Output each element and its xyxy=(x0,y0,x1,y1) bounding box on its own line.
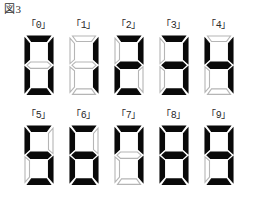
segment-bottom-right-icon xyxy=(48,157,53,182)
segment-top-left-icon xyxy=(70,38,75,63)
digit-row: 「0」「1」「2」「3」「4」 xyxy=(0,20,267,96)
segment-top-right-icon xyxy=(183,38,188,63)
segment-top-icon xyxy=(117,126,140,132)
segment-bottom-right-icon xyxy=(183,157,188,182)
seven-segment-display-8 xyxy=(155,124,193,186)
seven-segment-display-4 xyxy=(200,34,238,96)
segment-middle-icon xyxy=(117,152,141,158)
segment-middle-icon xyxy=(27,62,51,68)
digit-cell-0: 「0」 xyxy=(16,20,61,96)
segment-top-icon xyxy=(72,126,95,132)
digit-cell-5: 「5」 xyxy=(16,110,61,186)
seven-segment-display-6 xyxy=(65,124,103,186)
segment-bottom-left-icon xyxy=(160,157,165,182)
segment-bottom-left-icon xyxy=(205,157,210,182)
seven-segment-display-0 xyxy=(20,34,58,96)
segment-middle-icon xyxy=(207,62,231,68)
segment-bottom-left-icon xyxy=(160,67,165,92)
digit-cell-9: 「9」 xyxy=(196,110,241,186)
segment-top-left-icon xyxy=(205,38,210,63)
segment-top-left-icon xyxy=(115,38,120,63)
segment-bottom-icon xyxy=(72,89,95,95)
segment-top-icon xyxy=(72,36,95,42)
segment-bottom-icon xyxy=(117,89,140,95)
segment-bottom-icon xyxy=(72,179,95,185)
seven-segment-display-9 xyxy=(200,124,238,186)
segment-bottom-icon xyxy=(207,179,230,185)
segment-bottom-right-icon xyxy=(93,67,98,92)
segment-bottom-left-icon xyxy=(25,67,30,92)
segment-top-right-icon xyxy=(138,38,143,63)
segment-bottom-right-icon xyxy=(138,67,143,92)
segment-bottom-icon xyxy=(27,89,50,95)
segment-middle-icon xyxy=(207,152,231,158)
segment-top-icon xyxy=(117,36,140,42)
segment-bottom-icon xyxy=(27,179,50,185)
digit-cell-1: 「1」 xyxy=(61,20,106,96)
segment-top-right-icon xyxy=(183,128,188,153)
digit-label-5: 「5」 xyxy=(26,110,51,124)
segment-middle-icon xyxy=(117,62,141,68)
segment-bottom-right-icon xyxy=(228,67,233,92)
segment-bottom-left-icon xyxy=(70,67,75,92)
figure-caption: 図3 xyxy=(4,3,22,16)
digit-label-3: 「3」 xyxy=(161,20,186,34)
segment-top-right-icon xyxy=(138,128,143,153)
digit-cell-4: 「4」 xyxy=(196,20,241,96)
seven-segment-display-7 xyxy=(110,124,148,186)
segment-middle-icon xyxy=(72,152,96,158)
segment-top-left-icon xyxy=(160,128,165,153)
seven-segment-display-3 xyxy=(155,34,193,96)
digit-label-9: 「9」 xyxy=(206,110,231,124)
segment-bottom-icon xyxy=(207,89,230,95)
segment-middle-icon xyxy=(72,62,96,68)
segment-bottom-right-icon xyxy=(183,67,188,92)
segment-top-left-icon xyxy=(25,38,30,63)
segment-middle-icon xyxy=(162,62,186,68)
segment-top-left-icon xyxy=(25,128,30,153)
digit-cell-3: 「3」 xyxy=(151,20,196,96)
segment-bottom-left-icon xyxy=(115,157,120,182)
digit-cell-6: 「6」 xyxy=(61,110,106,186)
segment-top-left-icon xyxy=(205,128,210,153)
segment-bottom-left-icon xyxy=(205,67,210,92)
segment-bottom-left-icon xyxy=(115,67,120,92)
segment-top-icon xyxy=(162,126,185,132)
digit-label-1: 「1」 xyxy=(71,20,96,34)
segment-top-right-icon xyxy=(48,128,53,153)
seven-segment-display-2 xyxy=(110,34,148,96)
digit-cell-7: 「7」 xyxy=(106,110,151,186)
digit-label-8: 「8」 xyxy=(161,110,186,124)
seven-segment-display-1 xyxy=(65,34,103,96)
segment-top-icon xyxy=(27,36,50,42)
segment-middle-icon xyxy=(27,152,51,158)
segment-top-right-icon xyxy=(93,38,98,63)
segment-top-right-icon xyxy=(93,128,98,153)
segment-bottom-left-icon xyxy=(25,157,30,182)
digit-label-6: 「6」 xyxy=(71,110,96,124)
segment-top-icon xyxy=(207,126,230,132)
seven-segment-display-5 xyxy=(20,124,58,186)
segment-bottom-icon xyxy=(162,179,185,185)
digit-row: 「5」「6」「7」「8」「9」 xyxy=(0,110,267,186)
segment-bottom-icon xyxy=(162,89,185,95)
segment-bottom-right-icon xyxy=(48,67,53,92)
segment-top-right-icon xyxy=(228,128,233,153)
segment-bottom-right-icon xyxy=(93,157,98,182)
segment-top-left-icon xyxy=(160,38,165,63)
segment-bottom-left-icon xyxy=(70,157,75,182)
segment-middle-icon xyxy=(162,152,186,158)
segment-top-icon xyxy=(27,126,50,132)
digit-label-0: 「0」 xyxy=(26,20,51,34)
segment-bottom-icon xyxy=(117,179,140,185)
digit-cell-8: 「8」 xyxy=(151,110,196,186)
digit-cell-2: 「2」 xyxy=(106,20,151,96)
segment-top-icon xyxy=(162,36,185,42)
segment-top-icon xyxy=(207,36,230,42)
digit-label-4: 「4」 xyxy=(206,20,231,34)
segment-top-right-icon xyxy=(48,38,53,63)
digit-label-2: 「2」 xyxy=(116,20,141,34)
segment-bottom-right-icon xyxy=(138,157,143,182)
seven-segment-digit-grid: 「0」「1」「2」「3」「4」「5」「6」「7」「8」「9」 xyxy=(0,20,267,200)
segment-bottom-right-icon xyxy=(228,157,233,182)
